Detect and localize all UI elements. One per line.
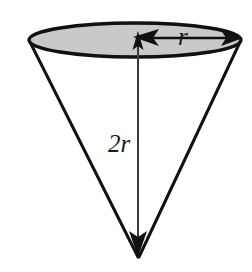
height-label: 2r — [108, 131, 130, 156]
cone-body-fill — [29, 41, 241, 258]
cone-figure: r 2r — [0, 0, 252, 272]
radius-label: r — [178, 24, 188, 49]
cone-top-ellipse — [29, 23, 241, 57]
